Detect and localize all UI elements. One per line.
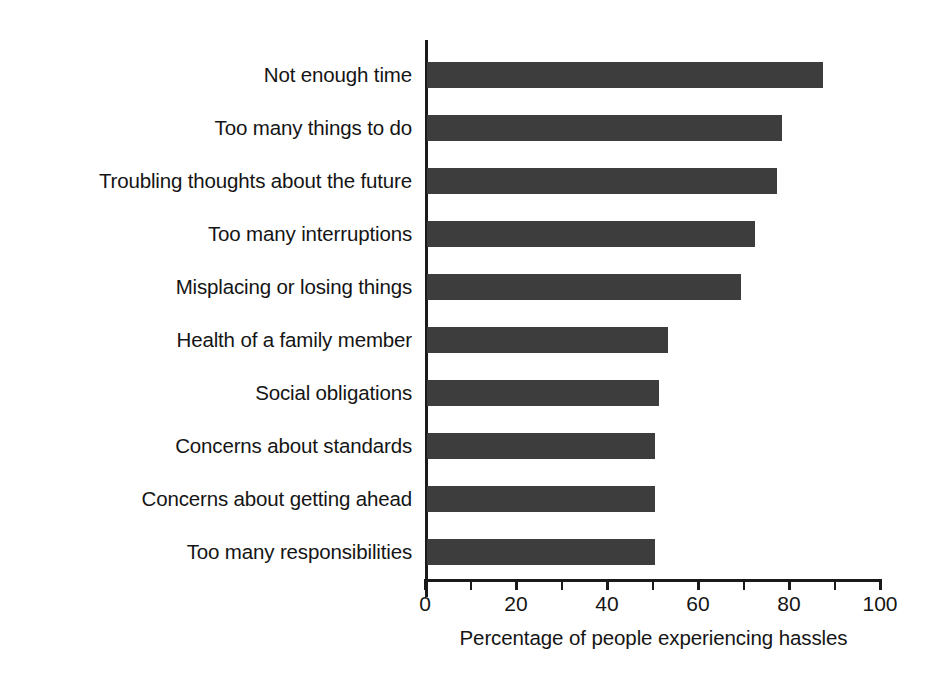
category-label-1: Too many things to do xyxy=(0,116,412,140)
x-tick-0 xyxy=(424,579,427,590)
bar-5 xyxy=(427,327,668,353)
bar-2 xyxy=(427,168,777,194)
category-axis-labels: Not enough time Too many things to do Tr… xyxy=(0,40,412,580)
x-tick-100 xyxy=(879,579,882,590)
x-tick-50 xyxy=(652,579,655,590)
x-tick-label-20: 20 xyxy=(504,592,527,616)
category-label-7: Concerns about standards xyxy=(0,434,412,458)
x-axis: Percentage of people experiencing hassle… xyxy=(425,579,895,679)
x-tick-60 xyxy=(697,579,700,590)
x-tick-label-0: 0 xyxy=(419,592,431,616)
bar-7 xyxy=(427,433,655,459)
plot-area xyxy=(425,40,895,580)
bar-9 xyxy=(427,539,655,565)
x-tick-20 xyxy=(515,579,518,590)
x-tick-40 xyxy=(606,579,609,590)
category-label-3: Too many interruptions xyxy=(0,222,412,246)
category-label-4: Misplacing or losing things xyxy=(0,275,412,299)
x-tick-label-80: 80 xyxy=(777,592,800,616)
x-tick-label-60: 60 xyxy=(686,592,709,616)
x-tick-label-40: 40 xyxy=(595,592,618,616)
category-label-8: Concerns about getting ahead xyxy=(0,487,412,511)
x-axis-title: Percentage of people experiencing hassle… xyxy=(425,626,882,650)
x-tick-label-100: 100 xyxy=(862,592,897,616)
x-tick-30 xyxy=(561,579,564,590)
bar-8 xyxy=(427,486,655,512)
category-label-0: Not enough time xyxy=(0,63,412,87)
x-tick-80 xyxy=(788,579,791,590)
bar-3 xyxy=(427,221,755,247)
x-tick-70 xyxy=(743,579,746,590)
category-label-6: Social obligations xyxy=(0,381,412,405)
x-tick-10 xyxy=(470,579,473,590)
bar-1 xyxy=(427,115,782,141)
bar-chart: Not enough time Too many things to do Tr… xyxy=(0,0,943,688)
bar-4 xyxy=(427,274,741,300)
category-label-2: Troubling thoughts about the future xyxy=(0,169,412,193)
bar-6 xyxy=(427,380,659,406)
category-label-5: Health of a family member xyxy=(0,328,412,352)
bar-0 xyxy=(427,62,823,88)
category-label-9: Too many responsibilities xyxy=(0,540,412,564)
x-tick-90 xyxy=(834,579,837,590)
